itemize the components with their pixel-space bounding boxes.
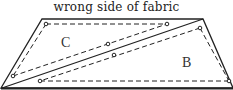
piece-c-seam (13, 24, 167, 76)
diagonal-cut-line (2, 19, 203, 88)
piece-b-label: B (182, 55, 191, 70)
fabric-diagram: C B (0, 0, 233, 90)
piece-c-label: C (61, 35, 70, 50)
